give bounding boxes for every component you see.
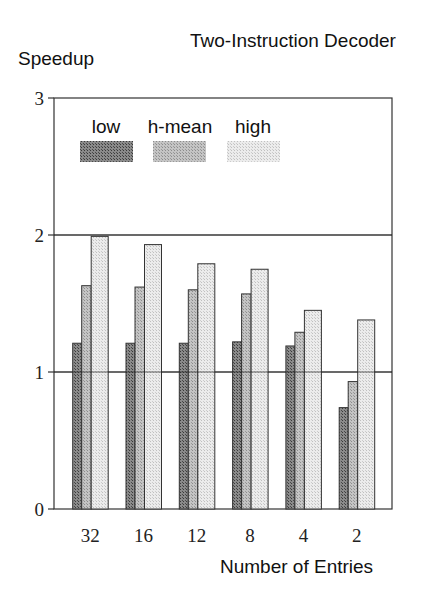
- bar-low: [179, 343, 188, 509]
- bar-hmean: [135, 287, 145, 509]
- bar-low: [233, 342, 242, 509]
- x-tick-label: 16: [134, 525, 153, 546]
- bar-hmean: [295, 332, 305, 509]
- legend-label: low: [92, 116, 121, 137]
- x-tick-label: 4: [299, 525, 309, 546]
- bar-chart: 0123321612842lowh-meanhigh: [0, 0, 432, 602]
- bar-hmean: [188, 290, 198, 509]
- x-tick-label: 8: [245, 525, 255, 546]
- y-tick-label: 3: [35, 88, 45, 109]
- bar-low: [286, 346, 295, 509]
- bar-high: [358, 320, 375, 509]
- legend-label: h-mean: [148, 116, 212, 137]
- bar-high: [198, 264, 215, 509]
- y-tick-label: 2: [35, 225, 45, 246]
- bar-high: [251, 269, 268, 509]
- y-tick-label: 1: [35, 362, 45, 383]
- bar-hmean: [348, 382, 358, 509]
- bar-high: [91, 236, 108, 509]
- bar-hmean: [82, 286, 92, 509]
- legend-label: high: [235, 116, 271, 137]
- bar-hmean: [242, 294, 252, 509]
- plot-area: 0123321612842lowh-meanhigh: [35, 88, 393, 546]
- bar-low: [126, 343, 135, 509]
- bar-high: [304, 310, 321, 509]
- x-tick-label: 12: [187, 525, 206, 546]
- x-tick-label: 2: [352, 525, 362, 546]
- legend-swatch-hmean: [153, 141, 206, 162]
- x-tick-label: 32: [81, 525, 100, 546]
- bar-low: [339, 408, 348, 509]
- bar-low: [73, 343, 82, 509]
- legend-swatch-low: [80, 141, 133, 162]
- y-tick-label: 0: [35, 499, 45, 520]
- legend-swatch-high: [227, 141, 280, 162]
- bar-high: [145, 245, 162, 509]
